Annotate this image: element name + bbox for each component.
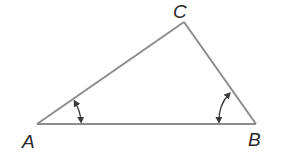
angle-marker-b-icon	[219, 94, 229, 121]
side-ca	[37, 22, 184, 124]
vertex-label-b: B	[248, 129, 261, 150]
vertex-label-c: C	[173, 1, 187, 22]
vertex-label-a: A	[21, 131, 35, 152]
triangle-diagram: A B C	[0, 0, 283, 152]
angle-marker-a-icon	[75, 102, 81, 121]
